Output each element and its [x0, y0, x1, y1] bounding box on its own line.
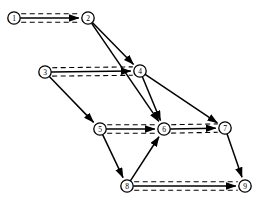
diagonal-edge — [92, 22, 133, 64]
channel-edge-layer — [20, 14, 238, 190]
graph-node-1[interactable]: 1 — [8, 12, 20, 24]
graph-diagram-canvas: 123456789 — [0, 0, 264, 206]
channel-arrow — [170, 128, 216, 129]
channel-dashed-bottom — [171, 132, 218, 133]
diagonal-edge — [103, 135, 123, 178]
node-label: 5 — [98, 125, 102, 134]
channel-dashed-top — [171, 124, 218, 125]
node-label: 7 — [223, 124, 227, 133]
channel-edge — [106, 125, 157, 133]
node-label: 2 — [86, 14, 90, 23]
diagonal-edge — [92, 23, 159, 121]
graph-node-8[interactable]: 8 — [121, 180, 133, 192]
graph-node-9[interactable]: 9 — [239, 180, 251, 192]
node-label: 9 — [243, 182, 247, 191]
channel-edge — [51, 67, 133, 76]
channel-edge — [20, 14, 81, 22]
node-label: 3 — [43, 68, 47, 77]
diagonal-edge — [130, 137, 159, 181]
channel-dashed-bottom — [52, 75, 133, 76]
channel-edge — [133, 182, 238, 190]
channel-edge — [170, 124, 218, 133]
diagonal-edge — [145, 74, 217, 122]
channel-arrow — [51, 71, 131, 72]
graph-node-7[interactable]: 7 — [219, 122, 231, 134]
graph-node-4[interactable]: 4 — [134, 65, 146, 77]
graph-node-2[interactable]: 2 — [82, 12, 94, 24]
diagonal-edge — [49, 76, 93, 122]
node-label: 8 — [125, 182, 129, 191]
node-label: 1 — [12, 14, 16, 23]
node-label: 6 — [162, 125, 166, 134]
diagonal-edge-layer — [49, 22, 242, 180]
graph-node-3[interactable]: 3 — [39, 66, 51, 78]
graph-svg: 123456789 — [0, 0, 264, 206]
graph-node-5[interactable]: 5 — [94, 123, 106, 135]
node-layer: 123456789 — [8, 12, 251, 192]
graph-node-6[interactable]: 6 — [158, 123, 170, 135]
diagonal-edge — [227, 134, 242, 177]
node-label: 4 — [138, 67, 142, 76]
